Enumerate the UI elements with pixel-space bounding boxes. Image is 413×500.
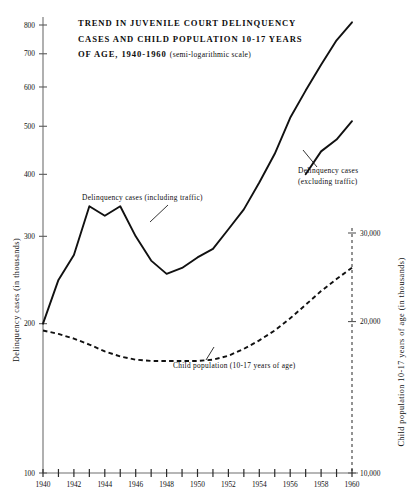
left-axis-tick-label: 500 <box>24 122 35 131</box>
chart-title-line: CASES AND CHILD POPULATION 10-17 YEARS <box>78 34 302 44</box>
trend-line-chart: TREND IN JUVENILE COURT DELINQUENCYCASES… <box>0 0 413 500</box>
chart-title-line: OF AGE, 1940-1960 <box>78 49 167 59</box>
left-axis-tick-label: 300 <box>24 232 35 241</box>
x-axis-tick-label: 1958 <box>314 480 329 489</box>
chart-title-line: TREND IN JUVENILE COURT DELINQUENCY <box>78 18 296 28</box>
left-axis-tick-label: 800 <box>24 21 35 30</box>
y-axis-title: Delinquency cases (in thousands) <box>12 238 21 362</box>
x-axis-tick-label: 1950 <box>190 480 205 489</box>
x-axis-tick-label: 1942 <box>67 480 82 489</box>
x-axis-tick-label: 1946 <box>128 480 143 489</box>
right-axis-tick-label: 20,000 <box>360 317 381 326</box>
left-axis-tick-label: 700 <box>24 49 35 58</box>
x-axis-tick-label: 1944 <box>97 480 112 489</box>
chart-background <box>0 0 413 500</box>
x-axis-tick-label: 1940 <box>36 480 51 489</box>
y2-axis-title: Child population 10-17 years of age (in … <box>397 257 406 446</box>
left-axis-tick-label: 200 <box>24 319 35 328</box>
x-axis-tick-label: 1960 <box>345 480 360 489</box>
x-axis-tick-label: 1948 <box>159 480 174 489</box>
chart-title-suffix: (semi-logarithmic scale) <box>170 50 251 59</box>
x-axis-tick-label: 1956 <box>283 480 298 489</box>
annotation-label-including: Delinquency cases (including traffic) <box>82 193 203 202</box>
x-axis-tick-label: 1952 <box>221 480 236 489</box>
annotation-label-excluding: (excluding traffic) <box>298 177 358 186</box>
left-axis-tick-label: 100 <box>24 469 35 478</box>
annotation-label-excluding: Delinquency cases <box>298 166 358 175</box>
right-axis-tick-label: 10,000 <box>360 469 381 478</box>
right-axis-tick-label: 30,000 <box>360 229 381 238</box>
left-axis-tick-label: 600 <box>24 83 35 92</box>
annotation-label-population: Child population (10-17 years of age) <box>173 361 296 370</box>
left-axis-tick-label: 400 <box>24 170 35 179</box>
x-axis-tick-label: 1954 <box>252 480 267 489</box>
chart-container: TREND IN JUVENILE COURT DELINQUENCYCASES… <box>0 0 413 500</box>
